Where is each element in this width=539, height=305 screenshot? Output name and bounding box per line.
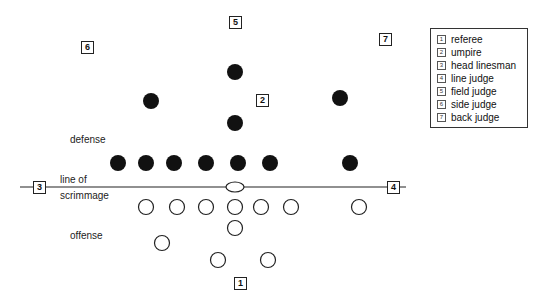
official-marker-1: 1 <box>234 277 247 290</box>
official-number-icon: 5 <box>437 87 446 96</box>
legend-label: line judge <box>451 73 494 84</box>
legend-label: umpire <box>451 47 482 58</box>
official-marker-5: 5 <box>229 16 242 29</box>
legend-item: 1referee <box>437 34 483 45</box>
defense-label: defense <box>70 134 106 145</box>
officials-legend: 1referee2umpire3head linesman4line judge… <box>430 28 528 128</box>
legend-label: back judge <box>451 112 499 123</box>
official-number-icon: 3 <box>437 61 446 70</box>
official-number-icon: 1 <box>437 35 446 44</box>
official-number-icon: 4 <box>437 74 446 83</box>
official-number-icon: 6 <box>437 100 446 109</box>
line-of-scrimmage-label-1: line of <box>60 174 87 185</box>
offense-players <box>139 200 367 268</box>
official-marker-6: 6 <box>81 41 94 54</box>
official-marker-7: 7 <box>379 33 392 46</box>
legend-label: referee <box>451 34 483 45</box>
official-marker-3: 3 <box>33 181 46 194</box>
offense-label: offense <box>70 230 103 241</box>
official-marker-2: 2 <box>256 94 269 107</box>
football-icon <box>226 182 244 192</box>
legend-item: 4line judge <box>437 73 494 84</box>
legend-label: head linesman <box>451 60 516 71</box>
official-marker-4: 4 <box>387 181 400 194</box>
legend-label: field judge <box>451 86 497 97</box>
defense-players <box>110 64 358 171</box>
legend-item: 6side judge <box>437 99 497 110</box>
legend-item: 7back judge <box>437 112 499 123</box>
legend-item: 3head linesman <box>437 60 516 71</box>
official-number-icon: 7 <box>437 113 446 122</box>
legend-item: 5field judge <box>437 86 497 97</box>
line-of-scrimmage-label-2: scrimmage <box>60 190 109 201</box>
legend-item: 2umpire <box>437 47 482 58</box>
legend-label: side judge <box>451 99 497 110</box>
official-number-icon: 2 <box>437 48 446 57</box>
